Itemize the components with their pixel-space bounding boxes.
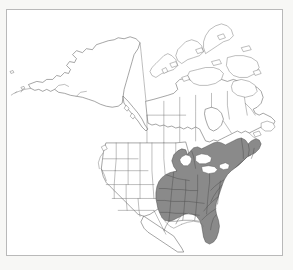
- map-frame: [6, 9, 283, 256]
- range-coverage-description: Eastern United States from the Great Lak…: [0, 0, 1, 1]
- figure-title: North America Range Map: [0, 0, 1, 1]
- range-legend-label: Distribution range: [0, 0, 1, 1]
- figure-description: Outline map of North America showing spe…: [0, 0, 1, 1]
- north-america-map: [7, 10, 282, 255]
- range-map-figure: North America Range Map Outline map of N…: [0, 0, 293, 270]
- region-alaska: [10, 37, 148, 131]
